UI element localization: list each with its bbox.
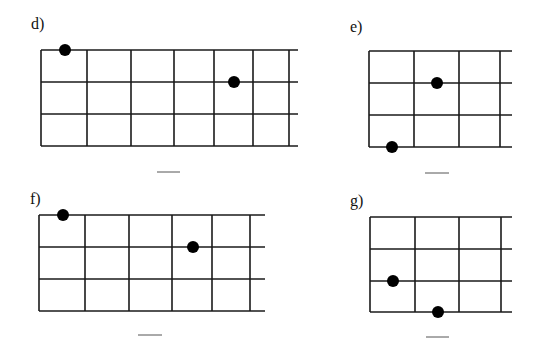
dot-marker xyxy=(59,44,71,56)
dot-marker xyxy=(431,77,443,89)
dot-marker xyxy=(387,275,399,287)
dot-marker xyxy=(187,241,199,253)
dot-marker xyxy=(57,209,69,221)
fretboard-diagrams xyxy=(0,0,536,357)
dot-marker xyxy=(228,76,240,88)
dot-marker xyxy=(432,306,444,318)
dot-marker xyxy=(386,141,398,153)
